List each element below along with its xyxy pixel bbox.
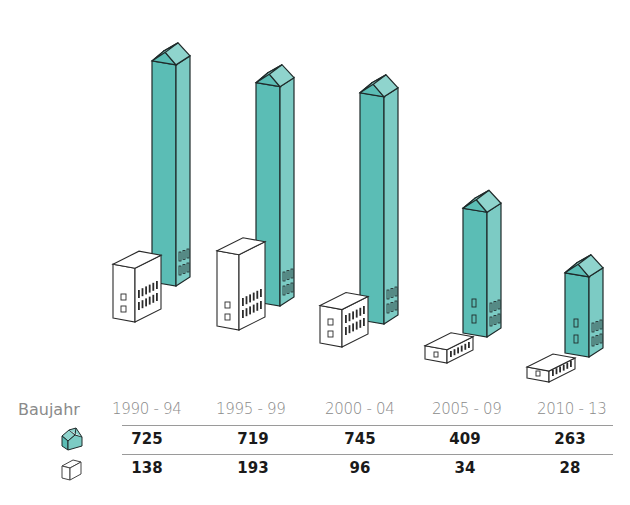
window-icon: [152, 283, 154, 291]
window-icon: [253, 293, 255, 301]
small-building-front-face: [320, 306, 342, 347]
column-header-2005: 2005 - 09: [432, 400, 502, 418]
value-teal-2005: 409: [425, 430, 505, 448]
window-icon: [461, 346, 463, 352]
window-icon: [559, 366, 561, 372]
value-white-2010: 28: [530, 459, 610, 477]
small-building-front-face: [217, 251, 239, 330]
window-icon: [145, 286, 147, 294]
column-header-2010: 2010 - 13: [537, 400, 607, 418]
value-teal-2000: 745: [320, 430, 400, 448]
window-icon: [149, 285, 151, 293]
value-teal-1995: 719: [213, 430, 293, 448]
value-white-1990: 138: [107, 459, 187, 477]
window-icon: [457, 347, 459, 353]
window-icon: [138, 290, 140, 298]
window-icon: [242, 298, 244, 306]
table-divider-middle: [122, 454, 613, 455]
window-icon: [349, 313, 351, 321]
window-icon: [363, 318, 365, 326]
baujahr-label: Baujahr: [18, 400, 80, 419]
window-icon: [253, 305, 255, 313]
window-icon: [359, 320, 361, 328]
window-icon: [152, 295, 154, 303]
window-icon: [345, 327, 347, 335]
window-icon: [352, 311, 354, 319]
value-teal-2010: 263: [530, 430, 610, 448]
building-chart: [0, 0, 630, 390]
white-block-icon: [60, 456, 84, 482]
window-icon: [246, 308, 248, 316]
window-icon: [149, 297, 151, 305]
window-icon: [454, 349, 456, 355]
window-icon: [156, 293, 158, 301]
window-icon: [142, 300, 144, 308]
column-header-1995: 1995 - 99: [216, 400, 286, 418]
small-building-front-face: [113, 264, 135, 322]
tall-building-front-face: [152, 61, 176, 286]
tall-building-front-face: [565, 273, 589, 357]
window-icon: [249, 306, 251, 314]
column-header-1990: 1990 - 94: [112, 400, 182, 418]
window-icon: [450, 351, 452, 357]
window-icon: [242, 310, 244, 318]
window-icon: [260, 301, 262, 309]
value-white-1995: 193: [213, 459, 293, 477]
window-icon: [363, 306, 365, 314]
window-icon: [256, 303, 258, 311]
window-icon: [356, 322, 358, 330]
window-icon: [345, 315, 347, 323]
window-icon: [349, 325, 351, 333]
window-icon: [464, 344, 466, 350]
window-icon: [249, 294, 251, 302]
window-icon: [352, 323, 354, 331]
window-icon: [142, 288, 144, 296]
window-icon: [246, 296, 248, 304]
tall-building-front-face: [463, 208, 487, 337]
window-icon: [145, 298, 147, 306]
teal-house-icon: [60, 426, 84, 452]
table-divider-top: [122, 425, 613, 426]
column-header-2000: 2000 - 04: [325, 400, 395, 418]
value-white-2005: 34: [425, 459, 505, 477]
value-teal-1990: 725: [107, 430, 187, 448]
tall-building-front-face: [360, 93, 384, 324]
window-icon: [260, 289, 262, 297]
window-icon: [256, 291, 258, 299]
window-icon: [552, 370, 554, 376]
window-icon: [138, 302, 140, 310]
value-white-2000: 96: [320, 459, 400, 477]
window-icon: [570, 361, 572, 367]
window-icon: [359, 308, 361, 316]
window-icon: [156, 281, 158, 289]
window-icon: [468, 342, 470, 348]
window-icon: [556, 368, 558, 374]
window-icon: [566, 363, 568, 369]
window-icon: [563, 365, 565, 371]
window-icon: [356, 310, 358, 318]
